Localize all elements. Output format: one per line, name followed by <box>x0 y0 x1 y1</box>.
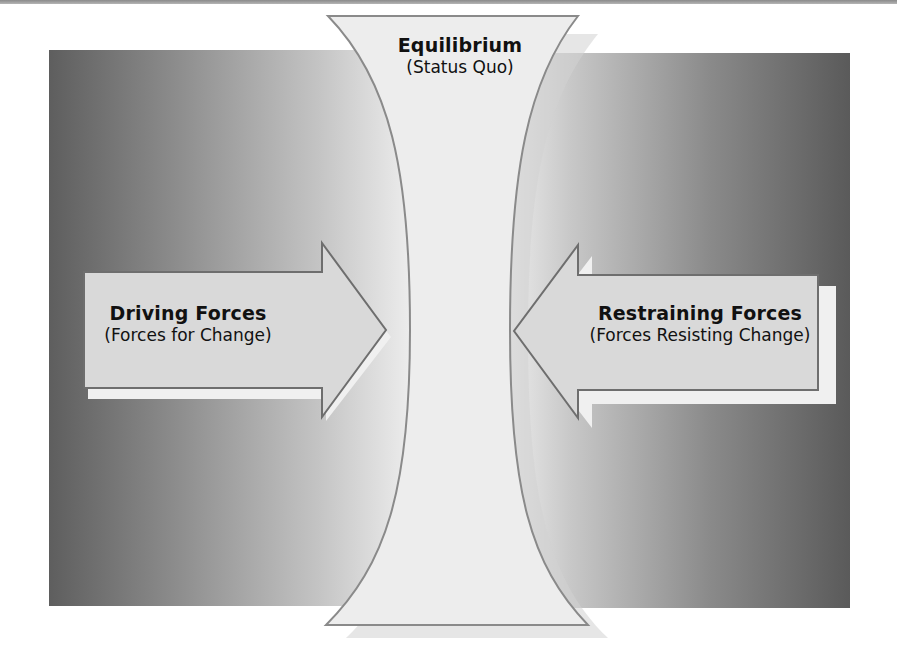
equilibrium-label: Equilibrium (Status Quo) <box>350 34 570 77</box>
restraining-forces-label: Restraining Forces (Forces Resisting Cha… <box>560 302 840 345</box>
equilibrium-title: Equilibrium <box>350 34 570 57</box>
restraining-forces-title: Restraining Forces <box>560 302 840 325</box>
driving-forces-title: Driving Forces <box>78 302 298 325</box>
equilibrium-subtitle: (Status Quo) <box>350 57 570 77</box>
restraining-forces-subtitle: (Forces Resisting Change) <box>560 325 840 345</box>
driving-forces-label: Driving Forces (Forces for Change) <box>78 302 298 345</box>
driving-forces-subtitle: (Forces for Change) <box>78 325 298 345</box>
force-field-diagram: Equilibrium (Status Quo) Driving Forces … <box>0 0 897 672</box>
